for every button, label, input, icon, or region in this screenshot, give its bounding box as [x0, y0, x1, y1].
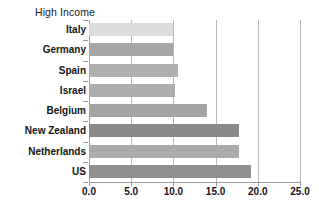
- x-tick-mark: [89, 182, 90, 186]
- bar-row: [89, 142, 300, 162]
- bar-row: [89, 121, 300, 141]
- y-tick-mark: [83, 142, 88, 143]
- gridline-x-25.0: [300, 20, 301, 182]
- bar-belgium[interactable]: [89, 104, 207, 117]
- y-tick-mark: [83, 20, 88, 21]
- bar-spain[interactable]: [89, 64, 178, 77]
- bar-netherlands[interactable]: [89, 145, 239, 158]
- y-tick-mark: [83, 182, 88, 183]
- x-tick-label-0.0: 0.0: [82, 186, 96, 197]
- x-axis-tick-labels: 0.05.010.015.020.025.0: [0, 186, 319, 206]
- bar-row: [89, 20, 300, 40]
- y-label-israel: Israel: [2, 84, 86, 97]
- bar-row: [89, 81, 300, 101]
- bar-italy[interactable]: [89, 23, 173, 36]
- bar-row: [89, 162, 300, 182]
- x-tick-label-25.0: 25.0: [290, 186, 309, 197]
- x-tick-label-5.0: 5.0: [124, 186, 138, 197]
- bar-row: [89, 40, 300, 60]
- x-tick-mark: [131, 182, 132, 186]
- y-tick-mark: [83, 81, 88, 82]
- x-tick-mark: [300, 182, 301, 186]
- x-tick-mark: [258, 182, 259, 186]
- chart-title: High Income: [35, 6, 95, 18]
- y-label-italy: Italy: [2, 23, 86, 36]
- y-tick-mark: [83, 101, 88, 102]
- y-tick-mark: [83, 121, 88, 122]
- x-tick-label-15.0: 15.0: [206, 186, 225, 197]
- y-label-belgium: Belgium: [2, 104, 86, 117]
- y-axis-category-labels: ItalyGermanySpainIsraelBelgiumNew Zealan…: [0, 20, 86, 182]
- bar-israel[interactable]: [89, 84, 175, 97]
- y-label-netherlands: Netherlands: [2, 145, 86, 158]
- y-label-new-zealand: New Zealand: [2, 124, 86, 137]
- x-tick-mark: [216, 182, 217, 186]
- x-tick-label-10.0: 10.0: [164, 186, 183, 197]
- y-tick-mark: [83, 61, 88, 62]
- bar-chart-figure: High Income ItalyGermanySpainIsraelBelgi…: [0, 0, 319, 209]
- bar-new-zealand[interactable]: [89, 124, 239, 137]
- x-axis-baseline: [89, 182, 300, 183]
- y-label-us: US: [2, 165, 86, 178]
- x-tick-mark: [173, 182, 174, 186]
- bar-germany[interactable]: [89, 43, 173, 56]
- y-label-germany: Germany: [2, 43, 86, 56]
- plot-area: [89, 20, 300, 182]
- y-tick-mark: [83, 162, 88, 163]
- bar-row: [89, 61, 300, 81]
- bar-row: [89, 101, 300, 121]
- x-tick-label-20.0: 20.0: [248, 186, 267, 197]
- bar-us[interactable]: [89, 165, 251, 178]
- y-tick-mark: [83, 40, 88, 41]
- y-label-spain: Spain: [2, 64, 86, 77]
